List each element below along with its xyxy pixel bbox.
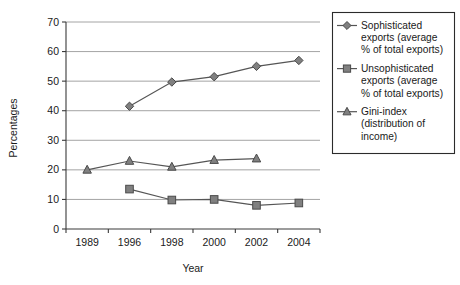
legend-label-line: Unsophisticated — [361, 63, 434, 74]
x-axis-ticks: 198919961998200020022004 — [66, 229, 320, 248]
y-axis-ticks: 010203040506070 — [47, 16, 320, 235]
data-point-diamond — [210, 73, 218, 81]
data-point-square — [168, 196, 176, 204]
data-point-diamond — [295, 56, 303, 64]
legend-label-line: % of total exports) — [361, 44, 443, 55]
y-tick-label: 0 — [53, 223, 59, 235]
legend-label-line: (distribution of — [361, 118, 425, 129]
data-point-square — [343, 65, 350, 72]
legend-label-line: exports (average — [361, 75, 438, 86]
legend-label-line: Sophisticated — [361, 20, 422, 31]
data-point-diamond — [168, 78, 176, 86]
series-1 — [125, 56, 303, 110]
x-tick-label: 1996 — [118, 236, 142, 248]
line-chart: Percentages 010203040506070 198919961998… — [0, 0, 460, 285]
legend-label-line: income) — [361, 131, 397, 142]
series-line — [130, 60, 299, 106]
x-tick-label: 2004 — [287, 236, 311, 248]
x-axis-title: Year — [182, 262, 204, 274]
y-tick-label: 50 — [47, 75, 59, 87]
x-tick-label: 1989 — [75, 236, 99, 248]
y-tick-label: 70 — [47, 16, 59, 28]
y-tick-label: 30 — [47, 134, 59, 146]
series-2 — [126, 185, 303, 209]
data-point-diamond — [252, 62, 260, 70]
data-point-square — [295, 199, 303, 207]
data-point-square — [126, 185, 134, 193]
series-layer — [83, 56, 303, 209]
y-tick-label: 20 — [47, 163, 59, 175]
data-point-square — [253, 202, 261, 210]
y-tick-label: 10 — [47, 193, 59, 205]
x-tick-label: 2002 — [245, 236, 269, 248]
legend-label-line: % of total exports) — [361, 88, 443, 99]
legend-label-line: exports (average — [361, 32, 438, 43]
y-axis-title: Percentages — [7, 99, 19, 158]
x-tick-label: 2000 — [202, 236, 226, 248]
x-tick-label: 1998 — [160, 236, 184, 248]
data-point-triangle — [125, 156, 133, 164]
legend-label-line: Gini-index — [361, 106, 407, 117]
data-point-diamond — [125, 102, 133, 110]
chart-container: Percentages 010203040506070 198919961998… — [0, 0, 460, 285]
data-point-square — [210, 196, 218, 204]
y-tick-label: 40 — [47, 104, 59, 116]
y-tick-label: 60 — [47, 45, 59, 57]
data-point-triangle — [252, 154, 260, 162]
